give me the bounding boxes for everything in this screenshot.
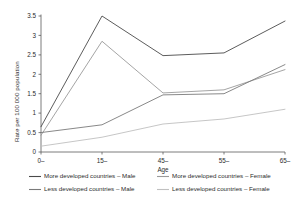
legend-label-more-developed-male: More developed countries – Male xyxy=(44,172,136,179)
y-tick-label: 0 xyxy=(32,148,36,155)
chart-container: Rate per 100 000 population 3.5 3 2.5 2 … xyxy=(0,0,298,199)
x-tick-label: 0– xyxy=(37,157,45,164)
legend-label-more-developed-female: More developed countries – Female xyxy=(172,172,271,179)
y-tick-label: 3.5 xyxy=(27,12,36,19)
y-axis-label: Rate per 100 000 population xyxy=(13,61,20,142)
series-line-less-developed-countries-male xyxy=(41,65,285,133)
y-axis-label-text: Rate per 100 000 population xyxy=(13,61,20,142)
series-group xyxy=(41,16,285,146)
y-tick-label: 2.5 xyxy=(27,51,36,58)
legend-label-less-developed-male: Less developed countries – Male xyxy=(44,185,135,192)
x-tick-label: 45– xyxy=(158,157,169,164)
series-line-more-developed-countries-male xyxy=(41,16,285,127)
y-tick-label: 2 xyxy=(32,71,36,78)
y-tick-label: 0.5 xyxy=(27,129,36,136)
x-tick-label: 55– xyxy=(219,157,230,164)
x-axis-label: Age xyxy=(157,166,169,174)
y-axis-ticks: 3.5 3 2.5 2 1.5 1 0.5 0 xyxy=(27,12,36,155)
legend-label-less-developed-female: Less developed countries – Female xyxy=(172,185,270,192)
x-axis-ticks: 0– 15– 45– 55– 65– xyxy=(37,157,290,164)
y-tick-label: 1.5 xyxy=(27,90,36,97)
x-tick-label: 65– xyxy=(280,157,291,164)
y-tick-label: 3 xyxy=(32,32,36,39)
x-tick-label: 15– xyxy=(97,157,108,164)
chart-legend: More developed countries – Male More dev… xyxy=(29,172,271,192)
line-chart: Rate per 100 000 population 3.5 3 2.5 2 … xyxy=(0,0,298,199)
y-tick-label: 1 xyxy=(32,109,36,116)
